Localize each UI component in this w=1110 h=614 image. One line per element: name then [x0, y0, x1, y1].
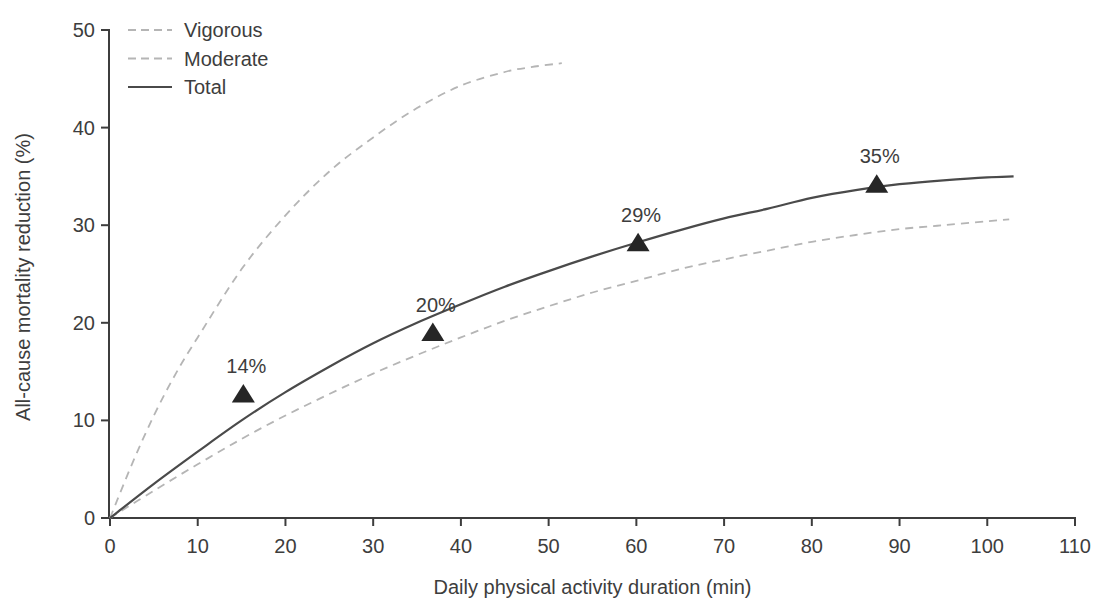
x-tick-label: 90 [888, 535, 910, 557]
legend-label: Vigorous [184, 19, 263, 41]
legend: VigorousModerateTotal [128, 19, 269, 98]
y-tick-label: 20 [73, 312, 95, 334]
y-tick-label: 40 [73, 117, 95, 139]
x-tick-label: 50 [538, 535, 560, 557]
x-tick-label: 20 [274, 535, 296, 557]
y-tick-label: 50 [73, 19, 95, 41]
x-tick-label: 10 [187, 535, 209, 557]
figure: 010203040506070809010011001020304050Dail… [0, 0, 1110, 614]
data-point-marker [232, 384, 255, 403]
y-axis-label: All-cause mortality reduction (%) [12, 133, 34, 421]
y-tick-label: 10 [73, 409, 95, 431]
data-point-marker [627, 233, 650, 252]
mortality-duration-chart: 010203040506070809010011001020304050Dail… [0, 0, 1110, 614]
x-axis-label: Daily physical activity duration (min) [434, 576, 752, 598]
x-tick-label: 100 [971, 535, 1004, 557]
x-tick-label: 40 [450, 535, 472, 557]
legend-label: Moderate [184, 48, 269, 70]
legend-item-vigorous: Vigorous [128, 19, 263, 41]
x-tick-label: 70 [713, 535, 735, 557]
x-tick-label: 110 [1059, 535, 1091, 557]
x-tick-label: 0 [104, 535, 115, 557]
data-point-label: 14% [226, 355, 266, 377]
x-tick-label: 30 [362, 535, 384, 557]
legend-label: Total [184, 76, 226, 98]
data-point-marker [865, 174, 888, 193]
y-tick-label: 0 [84, 507, 95, 529]
series-total-line [110, 176, 1014, 518]
x-tick-label: 80 [801, 535, 823, 557]
data-point-marker [421, 323, 444, 342]
legend-item-moderate: Moderate [128, 48, 269, 70]
data-point-label: 20% [416, 294, 456, 316]
y-tick-label: 30 [73, 214, 95, 236]
x-tick-label: 60 [625, 535, 647, 557]
data-point-label: 29% [621, 204, 661, 226]
data-point-label: 35% [860, 145, 900, 167]
legend-item-total: Total [128, 76, 226, 98]
